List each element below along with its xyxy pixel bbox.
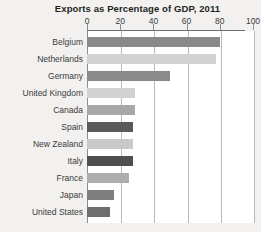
bar-row: Japan (0, 189, 261, 206)
x-tick-mark (153, 24, 154, 30)
bar-row: Italy (0, 155, 261, 172)
x-tick-mark (253, 24, 254, 30)
bar-row: Spain (0, 121, 261, 138)
chart-title: Exports as Percentage of GDP, 2011 (0, 3, 261, 14)
bar (87, 54, 216, 64)
bar-category-label: United Kingdom (23, 88, 83, 98)
bar-category-label: Japan (60, 190, 83, 200)
bar-row: Canada (0, 104, 261, 121)
bar (87, 139, 133, 149)
bar-row: Belgium (0, 36, 261, 53)
bar (87, 122, 133, 132)
bar (87, 173, 129, 183)
bar-category-label: Spain (61, 122, 83, 132)
bar-category-label: United States (32, 207, 83, 217)
bar-category-label: France (57, 173, 83, 183)
bar-category-label: Belgium (52, 37, 83, 47)
bar-category-label: Germany (48, 71, 83, 81)
bar (87, 190, 114, 200)
bar-row: New Zealand (0, 138, 261, 155)
bar-category-label: New Zealand (33, 139, 83, 149)
bar-row: United Kingdom (0, 87, 261, 104)
bar (87, 71, 170, 81)
bar-rows: BelgiumNetherlandsGermanyUnited KingdomC… (0, 36, 261, 228)
x-tick-mark (120, 24, 121, 30)
bar-chart-figure: Exports as Percentage of GDP, 2011 02040… (0, 0, 261, 232)
bar-category-label: Netherlands (37, 54, 83, 64)
bar-row: Germany (0, 70, 261, 87)
x-tick-mark (87, 24, 88, 30)
bar (87, 105, 135, 115)
bar-row: France (0, 172, 261, 189)
bar-category-label: Canada (53, 105, 83, 115)
bar-category-label: Italy (67, 156, 83, 166)
bar-row: Netherlands (0, 53, 261, 70)
bar (87, 207, 110, 217)
x-tick-mark (220, 24, 221, 30)
bar-row: United States (0, 206, 261, 223)
x-axis-tick-labels: 020406080100 (87, 16, 253, 28)
bar (87, 37, 220, 47)
x-tick-mark (187, 24, 188, 30)
bar (87, 156, 133, 166)
bar (87, 88, 135, 98)
